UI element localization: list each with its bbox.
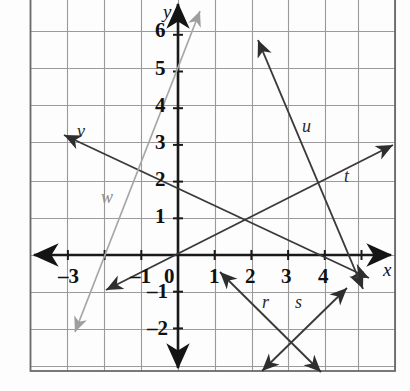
x-tick-label: 4 [318,266,329,287]
x-tick-label: 3 [281,266,292,287]
x-tick-label: –3 [58,266,79,287]
y-tick-label: –1 [147,281,168,302]
graph-figure: –3–101234 654321–1–2 tvuwrs x y [0,0,410,391]
y-tick-label: 2 [155,169,166,190]
coordinate-grid-canvas [0,0,410,391]
line-label-u: u [302,117,311,135]
y-tick-label: 6 [155,20,166,41]
line-label-v: v [77,122,85,140]
line-label-t: t [344,167,349,185]
x-tick-label: 2 [245,266,256,287]
y-tick-label: 3 [155,132,166,153]
line-label-s: s [295,293,302,311]
y-tick-label: 4 [155,95,166,116]
line-label-r: r [262,293,269,311]
y-tick-label: 1 [155,206,166,227]
line-label-w: w [101,188,113,206]
y-tick-label: –2 [147,318,168,339]
x-tick-label: 1 [209,266,220,287]
y-axis-label: y [163,2,171,21]
y-tick-label: 5 [155,58,166,79]
figure-background [0,0,410,391]
x-axis-label: x [383,260,391,279]
